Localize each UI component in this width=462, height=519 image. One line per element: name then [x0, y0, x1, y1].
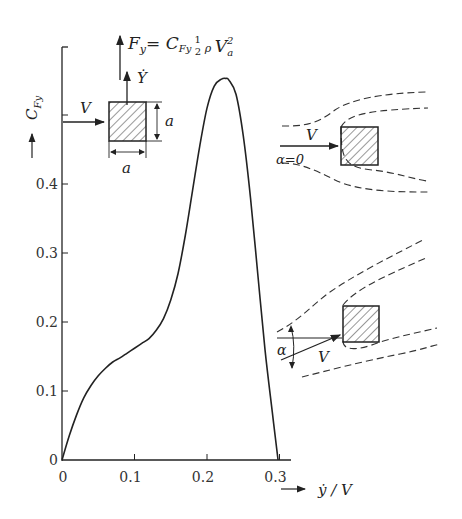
flow1-hatched-square: [341, 127, 378, 165]
y-tick-label: 0: [49, 452, 58, 468]
inset-square-diagram: Ẏ V a a: [63, 69, 174, 177]
y-axis-label: CFy: [23, 96, 43, 158]
formula-text: Fy= CFy 12 ρ V2a: [127, 33, 233, 58]
ydot-label: Ẏ: [137, 69, 149, 87]
y-tick-label: 0.1: [36, 383, 58, 399]
x-axis-label: ẏ / V: [281, 481, 354, 499]
flow2-hatched-square: [343, 306, 379, 342]
side-a-vertical-label: a: [165, 112, 174, 130]
y-tick-label: 0.2: [36, 314, 58, 330]
flow-diagram-alpha-zero: V α=0: [276, 92, 428, 192]
flow1-velocity-label: V: [306, 126, 319, 144]
y-ticks: 00.10.20.30.4: [36, 115, 68, 468]
y-tick-label: 0.4: [36, 176, 58, 192]
chart-canvas: 00.10.20.3 00.10.20.30.4 CFy ẏ / V Fy= C…: [0, 0, 462, 519]
flow1-alpha-label: α=0: [276, 152, 304, 167]
x-ticks: 00.10.20.3: [59, 454, 287, 485]
flow2-velocity-label: V: [318, 348, 331, 366]
x-tick-label: 0.1: [119, 469, 141, 485]
side-a-horizontal-label: a: [122, 159, 131, 177]
flow2-alpha-label: α: [277, 342, 287, 358]
y-tick-label: 0.3: [36, 245, 58, 261]
x-label-text: ẏ / V: [317, 481, 354, 499]
data-curve: [62, 78, 278, 460]
x-tick-label: 0.2: [192, 469, 214, 485]
velocity-label: V: [80, 99, 93, 117]
hatched-square: [109, 102, 146, 141]
x-tick-label: 0.3: [264, 469, 286, 485]
y-label-text: CFy: [23, 96, 43, 120]
x-tick-label: 0: [59, 469, 68, 485]
flow2-velocity-arrow: [281, 335, 340, 360]
axes: 00.10.20.3 00.10.20.30.4: [36, 47, 291, 485]
flow2-angle-arc: [291, 327, 294, 368]
flow-diagram-alpha: α V: [277, 240, 440, 377]
